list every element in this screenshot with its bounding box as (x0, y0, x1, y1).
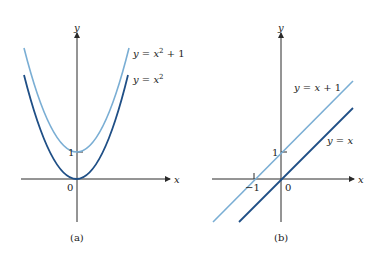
curve-label-x-squared-plus-one: y = x2 + 1 (132, 47, 185, 59)
origin-label: 0 (285, 182, 291, 193)
x-axis-label: x (358, 174, 364, 185)
y-axis-label: y (277, 22, 284, 33)
line-label-x: y = x (326, 135, 353, 146)
panel-a: y x 0 1 y = x2 + 1 y = x2 (a) (21, 22, 185, 243)
x-tick-label: −1 (245, 182, 260, 193)
y-tick-label: 1 (272, 147, 278, 158)
caption-a: (a) (70, 232, 84, 243)
x-axis-label: x (174, 174, 180, 185)
line-x-plus-one (213, 81, 353, 222)
line-label-x-plus-one: y = x + 1 (293, 82, 341, 93)
origin-label: 0 (67, 182, 73, 193)
line-x (239, 108, 353, 222)
figure: y x 0 1 y = x2 + 1 y = x2 (a) y x 0 1 −1… (0, 0, 376, 255)
caption-b: (b) (274, 232, 288, 243)
curve-label-x-squared: y = x2 (132, 73, 164, 85)
panel-b: y x 0 1 −1 y = x + 1 y = x (b) (212, 22, 364, 243)
y-tick-label: 1 (68, 147, 74, 158)
y-axis-label: y (73, 22, 80, 33)
curve-x-squared (24, 75, 128, 179)
